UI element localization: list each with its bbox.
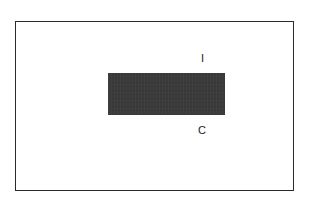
dark-rectangle-block bbox=[108, 73, 225, 115]
label-i: I bbox=[201, 53, 204, 64]
label-c: C bbox=[198, 125, 206, 136]
